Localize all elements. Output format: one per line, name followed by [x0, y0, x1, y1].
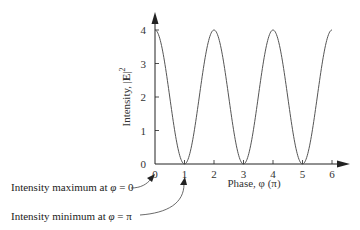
x-axis-title: Phase, φ (π) [227, 177, 280, 190]
x-tick-label: 5 [300, 168, 306, 180]
x-axis-arrow-icon [337, 161, 350, 168]
y-tick-label: 2 [141, 91, 147, 103]
y-axis-arrow-icon [152, 12, 159, 24]
y-tick-label: 1 [141, 125, 147, 137]
x-tick-label: 2 [211, 168, 217, 180]
annotation-minimum-pointer [140, 184, 184, 215]
intensity-phase-chart: 01234 0123456 Intensity, |E|2 Phase, φ (… [0, 0, 360, 230]
y-tick-label: 4 [141, 24, 147, 36]
y-tick-label: 3 [141, 58, 147, 70]
annotation-maximum-pointer [131, 179, 151, 188]
y-tick-label: 0 [141, 158, 147, 170]
annotation-minimum-label: Intensity minimum at φ = π [11, 210, 132, 222]
x-tick-label: 6 [329, 168, 335, 180]
intensity-curve [155, 30, 332, 164]
annotation-maximum-label: Intensity maximum at φ = 0 [11, 181, 134, 193]
y-axis-title: Intensity, |E|2 [118, 67, 132, 126]
y-ticks: 01234 [141, 24, 160, 170]
annotation-maximum: Intensity maximum at φ = 0 [11, 174, 155, 193]
